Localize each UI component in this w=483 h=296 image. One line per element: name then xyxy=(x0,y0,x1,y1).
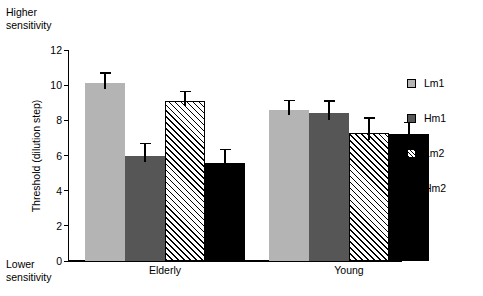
error-bar-cap xyxy=(284,100,295,101)
y-axis-tick: 10 xyxy=(36,79,68,91)
error-bar xyxy=(104,74,105,89)
y-axis-tick: 0 xyxy=(36,255,68,267)
bar-group xyxy=(269,50,429,261)
bar-item xyxy=(309,50,349,261)
error-bar xyxy=(328,102,329,120)
bar xyxy=(125,156,165,262)
y-axis-tick: 6 xyxy=(36,150,68,162)
y-axis-tick-label: 6 xyxy=(56,150,62,162)
bar xyxy=(349,133,389,261)
y-axis-tick: 12 xyxy=(36,44,68,56)
higher-sensitivity-annotation: Higher sensitivity xyxy=(6,6,52,31)
bar xyxy=(85,83,125,261)
error-bar-cap xyxy=(324,100,335,101)
legend-item: Lm1 xyxy=(407,78,481,89)
y-axis-ticks: 024681012 xyxy=(36,44,68,262)
y-axis-tick-label: 12 xyxy=(50,44,62,56)
y-axis-tick-label: 4 xyxy=(56,185,62,197)
bar-item xyxy=(85,50,125,261)
bar xyxy=(165,101,205,261)
legend-swatch xyxy=(407,149,416,158)
bar-item xyxy=(205,50,245,261)
y-axis-tick-label: 2 xyxy=(56,220,62,232)
legend: Lm1Hm1Lm2Hm2 xyxy=(407,78,481,218)
bar-item xyxy=(125,50,165,261)
bar-chart: Higher sensitivity Lower sensitivity Thr… xyxy=(0,0,483,296)
legend-item: Hm1 xyxy=(407,113,481,124)
plot-area xyxy=(69,50,402,261)
bar-item xyxy=(269,50,309,261)
y-axis-tick-label: 10 xyxy=(50,79,62,91)
bar xyxy=(205,163,245,261)
y-axis-tick: 2 xyxy=(36,220,68,232)
legend-label: Lm1 xyxy=(424,78,444,89)
error-bar xyxy=(184,92,185,106)
error-bar xyxy=(144,144,145,162)
error-bar xyxy=(288,101,289,115)
error-bar-cap xyxy=(220,149,231,150)
bar-item xyxy=(349,50,389,261)
legend-item: Hm2 xyxy=(407,183,481,194)
y-axis-tick-label: 0 xyxy=(56,255,62,267)
bar-item xyxy=(165,50,205,261)
y-axis-tick-label: 8 xyxy=(56,114,62,126)
error-bar xyxy=(368,119,369,141)
error-bar xyxy=(224,150,225,169)
bar xyxy=(309,113,349,261)
legend-label: Hm2 xyxy=(424,183,446,194)
legend-label: Hm1 xyxy=(424,113,446,124)
y-axis-tick: 4 xyxy=(36,185,68,197)
x-axis-category-label: Elderly xyxy=(85,264,245,276)
bar xyxy=(269,110,309,261)
legend-swatch xyxy=(407,79,416,88)
legend-item: Lm2 xyxy=(407,148,481,159)
bar-group xyxy=(85,50,245,261)
x-axis-category-label: Young xyxy=(269,264,429,276)
error-bar-cap xyxy=(100,72,111,73)
error-bar-cap xyxy=(140,143,151,144)
error-bar-cap xyxy=(364,117,375,118)
y-axis-tick: 8 xyxy=(36,114,68,126)
error-bar-cap xyxy=(180,91,191,92)
legend-label: Lm2 xyxy=(424,148,444,159)
legend-swatch xyxy=(407,184,416,193)
legend-swatch xyxy=(407,114,416,123)
